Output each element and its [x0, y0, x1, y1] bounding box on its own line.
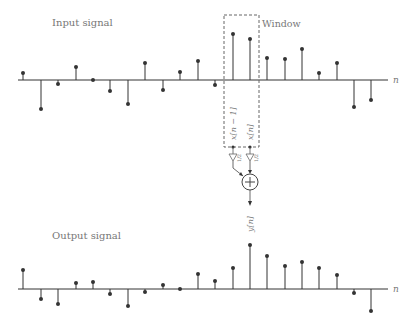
input-stems [21, 32, 373, 111]
output-stem-marker [231, 266, 235, 270]
output-stem-marker [74, 281, 78, 285]
input-stem-marker [317, 71, 321, 75]
input-stem-marker [265, 56, 269, 60]
output-stem-marker [317, 266, 321, 270]
tap-label-current: x[n] [246, 123, 255, 140]
input-stem-marker [300, 47, 304, 51]
output-stem-marker [56, 302, 60, 306]
input-stem-marker [283, 57, 287, 61]
window-label: Window [262, 18, 301, 29]
input-stem-marker [74, 65, 78, 69]
moving-average-diagram: Input signal n Window x[n − 1] x[n] 1/2 … [0, 0, 414, 328]
input-signal-title: Input signal [52, 17, 113, 28]
output-stem-marker [91, 280, 95, 284]
output-stem-marker [126, 304, 130, 308]
input-stem-marker [126, 102, 130, 106]
input-stem-marker [161, 88, 165, 92]
output-stems [21, 243, 373, 313]
output-stem-marker [283, 264, 287, 268]
output-stem-marker [300, 260, 304, 264]
output-stem-marker [335, 273, 339, 277]
input-stem-marker [213, 83, 217, 87]
input-axis-label: n [393, 75, 399, 85]
tap-label-prev: x[n − 1] [229, 106, 238, 140]
output-stem-marker [161, 283, 165, 287]
output-stem-marker [108, 292, 112, 296]
input-stem-marker [369, 98, 373, 102]
input-stem-marker [21, 71, 25, 75]
gain-label-current: 1/2 [253, 154, 259, 162]
diagram-svg: Input signal n Window x[n − 1] x[n] 1/2 … [0, 0, 414, 328]
output-stem-marker [196, 272, 200, 276]
output-arrow-icon [248, 201, 252, 206]
output-stem-marker [39, 297, 43, 301]
input-stem-marker [248, 37, 252, 41]
output-stem-marker [178, 287, 182, 291]
output-signal-title: Output signal [52, 230, 121, 241]
input-stem-marker [91, 78, 95, 82]
output-y-label: y[n] [246, 215, 255, 233]
input-stem-marker [108, 89, 112, 93]
input-stem-marker [39, 107, 43, 111]
input-stem-marker [231, 32, 235, 36]
input-stem-marker [352, 105, 356, 109]
gain-label-prev: 1/2 [236, 154, 242, 162]
output-stem-marker [143, 290, 147, 294]
input-stem-marker [196, 59, 200, 63]
input-stem-marker [56, 82, 60, 86]
output-stem-marker [21, 268, 25, 272]
output-stem-marker [265, 254, 269, 258]
output-stem-marker [213, 279, 217, 283]
output-stem-marker [369, 309, 373, 313]
output-axis-label: n [393, 284, 399, 294]
input-stem-marker [335, 61, 339, 65]
input-stem-marker [143, 61, 147, 65]
output-stem-marker [352, 291, 356, 295]
output-stem-marker [248, 243, 252, 247]
input-stem-marker [178, 70, 182, 74]
